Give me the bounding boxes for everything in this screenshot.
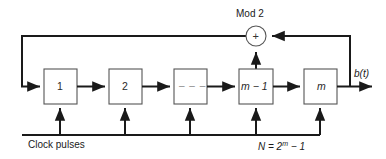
- clock-bus: [22, 108, 320, 135]
- formula-suffix: − 1: [288, 141, 305, 152]
- mod2-label: Mod 2: [236, 9, 264, 19]
- adder-plus-symbol: +: [253, 31, 259, 42]
- output-signal-label: b(t): [354, 69, 369, 79]
- formula-prefix: N = 2: [258, 141, 282, 152]
- shift-register-diagram: Mod 2 + 1 2 – – – m − 1 m b(t) Clock pul…: [0, 0, 386, 159]
- stage-label-3-dashes: – – –: [179, 81, 206, 91]
- stage-label-2: 2: [122, 81, 128, 92]
- sequence-length-formula: N = 2m − 1: [258, 140, 305, 152]
- clock-pulses-label: Clock pulses: [28, 140, 85, 150]
- stage-label-5: m: [317, 81, 326, 92]
- stage-label-4: m − 1: [241, 81, 268, 92]
- stage-label-1: 1: [57, 81, 63, 92]
